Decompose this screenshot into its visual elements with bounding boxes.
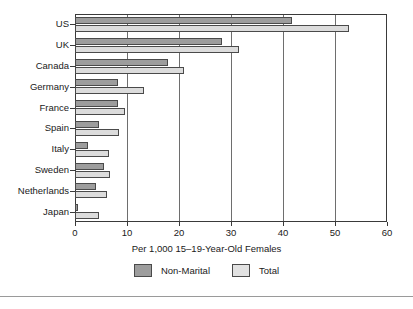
bar-japan-non-marital [75, 204, 78, 211]
bar-france-non-marital [75, 100, 118, 107]
y-axis-tick [70, 24, 75, 25]
y-axis-label-sweden: Sweden [35, 165, 69, 175]
legend-item-non-marital: Non-Marital [134, 264, 210, 277]
bar-group [75, 204, 387, 219]
chart-legend: Non-Marital Total [0, 264, 413, 277]
legend-label-non-marital: Non-Marital [161, 265, 210, 276]
x-axis-tick [387, 222, 388, 226]
y-axis-tick [70, 212, 75, 213]
y-axis-label-germany: Germany [30, 82, 69, 92]
bars-layer [75, 14, 387, 222]
bar-uk-total [75, 46, 239, 53]
y-axis-label-italy: Italy [52, 144, 69, 154]
bar-canada-non-marital [75, 59, 168, 66]
x-axis-tick-label: 60 [372, 227, 402, 238]
x-axis-tick-label: 30 [216, 227, 246, 238]
x-axis-tick [283, 222, 284, 226]
bar-germany-total [75, 87, 144, 94]
y-axis-label-us: US [56, 19, 69, 29]
y-axis-tick [70, 191, 75, 192]
x-axis-tick [127, 222, 128, 226]
bar-group [75, 100, 387, 115]
x-axis-tick [231, 222, 232, 226]
bar-netherlands-non-marital [75, 183, 96, 190]
bar-group [75, 121, 387, 136]
bar-italy-total [75, 150, 109, 157]
y-axis-label-netherlands: Netherlands [18, 186, 69, 196]
y-axis-tick [70, 149, 75, 150]
y-axis-tick [70, 45, 75, 46]
bar-group [75, 59, 387, 74]
y-axis-tick [70, 108, 75, 109]
y-axis-label-canada: Canada [36, 61, 69, 71]
bar-netherlands-total [75, 191, 107, 198]
x-axis-tick [75, 222, 76, 226]
bar-us-total [75, 25, 349, 32]
bar-france-total [75, 108, 125, 115]
bar-uk-non-marital [75, 38, 222, 45]
bottom-divider [0, 296, 413, 297]
x-axis-tick-label: 20 [164, 227, 194, 238]
bar-group [75, 17, 387, 32]
bar-italy-non-marital [75, 142, 88, 149]
bar-spain-non-marital [75, 121, 99, 128]
bar-group [75, 163, 387, 178]
x-axis-tick-label: 40 [268, 227, 298, 238]
y-axis: USUKCanadaGermanyFranceSpainItalySwedenN… [0, 14, 69, 222]
y-axis-tick [70, 128, 75, 129]
x-axis-tick-label: 0 [60, 227, 90, 238]
y-axis-tick [70, 66, 75, 67]
bar-canada-total [75, 67, 184, 74]
bar-germany-non-marital [75, 79, 118, 86]
y-axis-label-japan: Japan [43, 207, 69, 217]
x-axis-tick [335, 222, 336, 226]
x-axis-title: Per 1,000 15–19-Year-Old Females [0, 243, 413, 254]
bar-sweden-non-marital [75, 163, 104, 170]
bar-us-non-marital [75, 17, 292, 24]
legend-label-total: Total [259, 265, 279, 276]
bar-spain-total [75, 129, 119, 136]
legend-swatch-icon-total [232, 264, 250, 277]
x-axis-tick-label: 10 [112, 227, 142, 238]
legend-swatch-icon-non-marital [134, 264, 152, 277]
bar-group [75, 38, 387, 53]
y-axis-label-uk: UK [56, 40, 69, 50]
bar-group [75, 79, 387, 94]
bar-group [75, 142, 387, 157]
y-axis-tick [70, 170, 75, 171]
y-axis-label-france: France [39, 103, 69, 113]
y-axis-tick [70, 87, 75, 88]
bar-sweden-total [75, 171, 110, 178]
bar-japan-total [75, 212, 99, 219]
chart-figure: USUKCanadaGermanyFranceSpainItalySwedenN… [0, 0, 413, 309]
x-axis-tick-label: 50 [320, 227, 350, 238]
y-axis-label-spain: Spain [45, 123, 69, 133]
legend-item-total: Total [232, 264, 279, 277]
bar-group [75, 183, 387, 198]
x-axis-tick [179, 222, 180, 226]
